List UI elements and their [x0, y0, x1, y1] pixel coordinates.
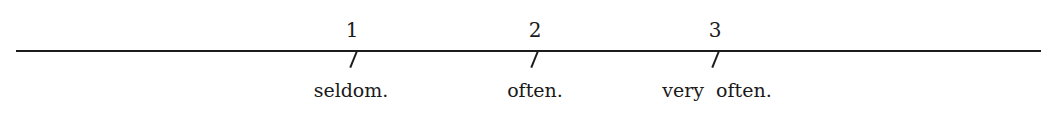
- scale-point-3-tick: [711, 51, 720, 68]
- scale-point-1-tick: [349, 51, 358, 68]
- scale-point-2-label: often.: [507, 78, 563, 102]
- scale-point-3-label: very often.: [662, 78, 772, 102]
- scale-point-2-number: 2: [529, 18, 542, 42]
- scale-point-1-number: 1: [346, 18, 359, 42]
- scale-point-3-number: 3: [709, 18, 722, 42]
- scale-point-2-tick: [530, 51, 539, 68]
- scale-line: [16, 50, 1041, 52]
- scale-point-1-label: seldom.: [314, 78, 389, 102]
